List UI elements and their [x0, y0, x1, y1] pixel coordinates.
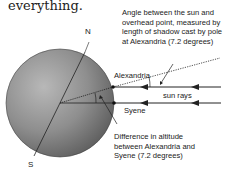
sun-ray-arrow	[191, 100, 199, 106]
sun-rays-label: sun rays	[163, 91, 192, 101]
alexandria-label: Alexandria	[114, 71, 150, 81]
north-pointer	[85, 42, 89, 52]
altitude-annotation: Difference in altitude between Alexandri…	[114, 132, 195, 161]
south-label: S	[28, 160, 33, 170]
sun-ray-arrow	[140, 84, 148, 90]
syene-label: Syene	[124, 106, 146, 116]
sun-ray-arrow	[191, 84, 199, 90]
angle-annotation: Angle between the sun and overhead point…	[122, 8, 222, 46]
syene-point	[112, 101, 116, 105]
alexandria-point	[111, 85, 115, 89]
north-label: N	[85, 27, 91, 37]
